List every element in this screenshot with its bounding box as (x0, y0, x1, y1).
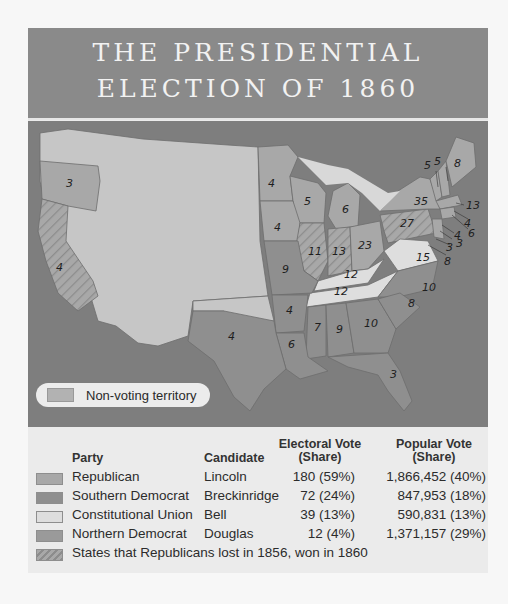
candidate-name: Douglas (204, 526, 254, 541)
header-electoral-vote: Electoral Vote (Share) (270, 438, 370, 464)
party-name: Constitutional Union (72, 507, 193, 522)
state-florida (328, 353, 412, 411)
header-popular-line2: (Share) (380, 451, 488, 464)
ev-label-new-hampshire: 5 (434, 155, 441, 168)
republican-swatch (36, 473, 63, 485)
ev-label-tennessee: 12 (334, 285, 348, 298)
ev-label-arkansas: 4 (286, 304, 293, 317)
electoral-vote: 12 (4%) (308, 526, 355, 541)
ev-label-delaware: 3 (456, 237, 463, 250)
ev-label-massachusetts: 13 (466, 199, 480, 212)
non-voting-label: Non-voting territory (86, 388, 197, 403)
electoral-vote: 72 (24%) (300, 488, 355, 503)
ev-label-georgia: 10 (364, 317, 378, 330)
electoral-vote: 180 (59%) (293, 469, 355, 484)
legend-row-southern-democrat: Southern Democrat Breckinridge 72 (24%) … (28, 488, 488, 507)
ev-label-alabama: 9 (336, 323, 343, 336)
ev-label-north-carolina: 10 (422, 281, 436, 294)
title-divider (28, 118, 488, 120)
northern-democrat-swatch (36, 530, 63, 542)
hatched-note-text: States that Republicans lost in 1856, wo… (72, 545, 368, 560)
popular-vote: 590,831 (13%) (397, 507, 486, 522)
party-name: Republican (72, 469, 140, 484)
ev-label-michigan: 6 (342, 203, 349, 216)
title-line-2: ELECTION OF 1860 (28, 74, 488, 103)
ev-label-mississippi: 7 (314, 321, 321, 334)
party-name: Northern Democrat (72, 526, 187, 541)
ev-label-illinois: 11 (308, 245, 322, 258)
ev-label-virginia: 15 (416, 251, 430, 264)
constitutional-union-swatch (36, 511, 63, 523)
candidate-name: Breckinridge (204, 488, 279, 503)
header-popular-vote: Popular Vote (Share) (380, 438, 488, 464)
state-new-jersey (432, 219, 444, 239)
state-maine (446, 137, 476, 187)
us-map: 3 4 4 5 6 4 11 13 23 27 35 5 5 8 13 4 6 … (28, 121, 488, 427)
ev-label-wisconsin: 5 (304, 195, 311, 208)
popular-vote: 1,866,452 (40%) (386, 469, 486, 484)
title-line-1: THE PRESIDENTIAL (28, 38, 488, 67)
ev-label-pennsylvania: 27 (400, 217, 414, 230)
header-electoral-line2: (Share) (270, 451, 370, 464)
ev-label-florida: 3 (390, 368, 397, 381)
ev-label-maine: 8 (454, 157, 461, 170)
electoral-vote: 39 (13%) (300, 507, 355, 522)
ev-label-vermont: 5 (424, 159, 431, 172)
legend-row-constitutional-union: Constitutional Union Bell 39 (13%) 590,8… (28, 507, 488, 526)
ev-label-kentucky: 12 (344, 268, 358, 281)
hatched-swatch (36, 549, 63, 561)
legend-row-hatched-note: States that Republicans lost in 1856, wo… (28, 545, 488, 564)
map-svg: 3 4 4 5 6 4 11 13 23 27 35 5 5 8 13 4 6 … (28, 121, 488, 427)
ev-label-iowa: 4 (274, 221, 281, 234)
ev-label-south-carolina: 8 (408, 297, 415, 310)
popular-vote: 847,953 (18%) (397, 488, 486, 503)
party-name: Southern Democrat (72, 488, 189, 503)
ev-label-maryland-callout: 8 (444, 255, 451, 268)
results-legend: Party Candidate Electoral Vote (Share) P… (28, 428, 488, 573)
ev-label-louisiana: 6 (288, 338, 295, 351)
southern-democrat-swatch (36, 492, 63, 504)
legend-row-northern-democrat: Northern Democrat Douglas 12 (4%) 1,371,… (28, 526, 488, 545)
candidate-name: Bell (204, 507, 227, 522)
ev-label-indiana: 13 (332, 245, 346, 258)
state-connecticut (440, 207, 456, 219)
title-band: THE PRESIDENTIAL ELECTION OF 1860 (28, 28, 488, 118)
ev-label-missouri: 9 (282, 263, 289, 276)
popular-vote: 1,371,157 (29%) (386, 526, 486, 541)
header-candidate: Candidate (204, 452, 264, 465)
ev-label-maryland: 3 (446, 241, 453, 254)
ev-label-oregon: 3 (66, 177, 73, 190)
legend-row-republican: Republican Lincoln 180 (59%) 1,866,452 (… (28, 469, 488, 488)
ev-label-new-york: 35 (414, 195, 428, 208)
ev-label-connecticut: 6 (468, 227, 475, 240)
ev-label-ohio: 23 (358, 239, 372, 252)
ev-label-texas: 4 (228, 330, 235, 343)
ev-label-california: 4 (56, 261, 63, 274)
candidate-name: Lincoln (204, 469, 247, 484)
header-party: Party (72, 452, 103, 465)
non-voting-swatch (47, 388, 74, 402)
non-voting-legend: Non-voting territory (36, 383, 210, 407)
ev-label-minnesota: 4 (268, 177, 275, 190)
election-map-figure: THE PRESIDENTIAL ELECTION OF 1860 (28, 28, 488, 573)
